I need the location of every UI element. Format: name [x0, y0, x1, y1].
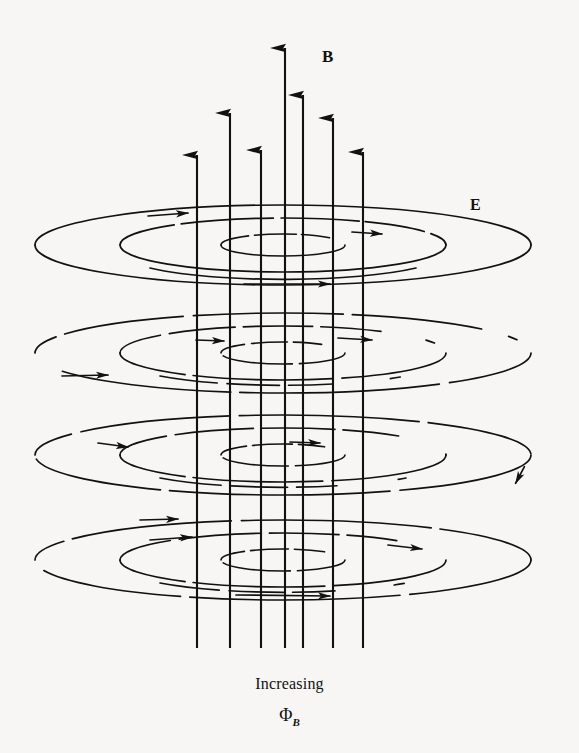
e-ring-mid-front-2 [120, 353, 446, 380]
e-arrow-mid-back-1 [352, 232, 382, 234]
e-ring-mid-front [120, 245, 446, 272]
e-ring-outer-front-2 [35, 353, 531, 393]
e-ring-outer-back-2 [35, 313, 531, 353]
e-ring-outer-back [35, 205, 531, 245]
e-arrow-mid-back-2 [196, 340, 224, 341]
e-ring-inner-back [221, 234, 345, 245]
e-arrow-outer-back-3 [98, 443, 128, 447]
flux-subscript: B [292, 716, 299, 728]
e-arrow-outer-back-1 [148, 213, 188, 216]
e-arrow-mid-back-3 [290, 442, 320, 443]
flux-symbol: Φ [279, 705, 292, 725]
field-diagram-svg [0, 0, 579, 753]
field-plane-2 [35, 313, 531, 393]
e-ring-inner-back-4 [221, 549, 345, 560]
e-ring-mid-back-3 [120, 428, 446, 455]
e-arrow-outer-back-2 [338, 338, 372, 340]
e-ring-inner-front-3 [221, 455, 345, 466]
electric-field-label: E [470, 197, 481, 213]
physics-figure: B E Increasing ΦB [0, 0, 579, 753]
e-ring-outer-front-3 [35, 455, 531, 495]
increasing-label: Increasing [0, 676, 579, 692]
field-plane-3 [35, 415, 531, 520]
e-ring-outer-back-4 [35, 520, 531, 560]
electric-field-planes [35, 205, 531, 600]
magnetic-field-label: B [322, 48, 333, 65]
e-ring-outer-back-3 [35, 415, 531, 455]
e-ring-mid-back-2 [120, 326, 446, 353]
e-ring-outer-front-4 [35, 560, 531, 600]
e-ring-inner-back-2 [221, 342, 345, 353]
field-plane-4 [35, 520, 531, 600]
e-arrow-outer-front-2 [62, 375, 108, 376]
e-ring-mid-front-3 [120, 455, 446, 482]
e-ring-inner-back-3 [221, 444, 345, 455]
e-arrow-mid-back-4 [388, 545, 422, 549]
field-plane-1 [35, 205, 531, 285]
e-arrow-outer-front-3 [140, 519, 178, 520]
e-ring-inner-front-4 [221, 560, 345, 571]
overlap-front-1 [150, 268, 416, 279]
e-ring-mid-front-4 [120, 560, 446, 587]
e-ring-inner-front-2 [221, 353, 345, 364]
flux-label: ΦB [0, 706, 579, 728]
e-ring-mid-back [120, 218, 446, 245]
e-arrow-inner-front-4 [236, 595, 330, 596]
e-ring-inner-front [221, 245, 345, 256]
